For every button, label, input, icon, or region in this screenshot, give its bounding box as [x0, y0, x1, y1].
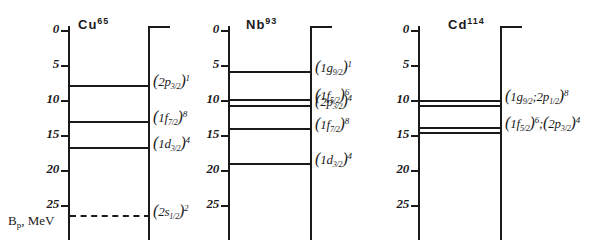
energy-level-cd114-2 [420, 127, 502, 129]
axis-tick-0 [411, 30, 419, 32]
energy-level-cd114-1 [420, 105, 502, 107]
orbital-j: 9/2 [523, 97, 533, 106]
axis-tick-5 [411, 65, 419, 67]
axis-tick-label-20: 20 [374, 161, 409, 177]
level-bracket-top-arm-cd114 [500, 26, 522, 28]
axis-tick-label-5: 5 [374, 56, 409, 72]
energy-level-cd114-0 [420, 100, 502, 102]
orbital-label-cd114-0: (1g9/2;2p1/2)8 [505, 87, 568, 106]
orbital-j: 5/2 [520, 124, 530, 133]
nuclide-title-cd114: Cd114 [448, 16, 485, 32]
axis-caption-symbol: B [8, 213, 17, 228]
nuclide-mass-number: 114 [467, 16, 485, 26]
axis-tick-label-25: 25 [374, 196, 409, 212]
shell-model-level-diagram: 0510152025Cu65(2p3/2)1(1f7/2)8(1d3/2)4(2… [0, 0, 603, 250]
axis-tick-10 [411, 100, 419, 102]
axis-tick-15 [411, 135, 419, 137]
orbital-occupancy-2: 4 [576, 115, 580, 125]
axis-caption-unit: , MeV [21, 213, 54, 228]
orbital-label-cd114-2: (1f5/2)6;(2p3/2)4 [505, 114, 580, 133]
axis-tick-label-10: 10 [374, 91, 409, 107]
energy-level-cd114-3 [420, 132, 502, 134]
panel-cd114: 0510152025Cd114(1g9/2;2p1/2)8(1f5/2)6;(2… [0, 0, 603, 250]
orbital-occupancy: 8 [564, 88, 568, 98]
axis-tick-label-15: 15 [374, 126, 409, 142]
axis-tick-25 [411, 205, 419, 207]
axis-caption: Bp, MeV [8, 213, 54, 230]
axis-tick-label-0: 0 [374, 21, 409, 37]
axis-tick-20 [411, 170, 419, 172]
orbital-j2: 1/2 [549, 97, 559, 106]
